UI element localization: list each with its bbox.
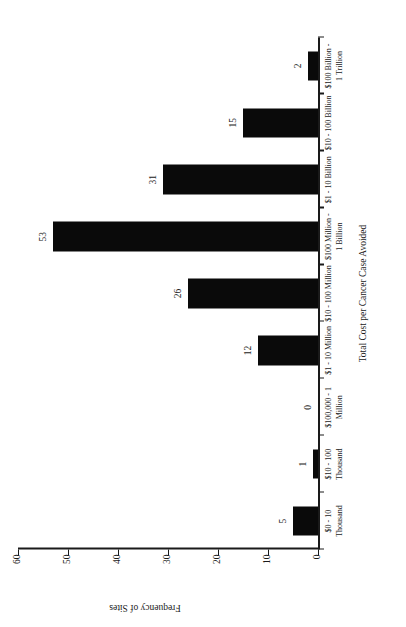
bar-value-label: 26 (173, 288, 184, 298)
bar-value-label: 1 (298, 461, 309, 466)
x-axis-category-label: $1 - 10 Billion (324, 151, 335, 208)
bar (308, 51, 318, 81)
bar-value-label: 2 (293, 63, 304, 68)
bar (53, 221, 318, 251)
x-axis-category-label: $10 - 100 Billion (324, 94, 335, 151)
chart-page: 51012265331152 0102030405060 $0 - 10 Tho… (0, 0, 406, 627)
x-axis-category-label: $100 Billion - 1 Trillion (324, 37, 345, 94)
y-axis-tick-label: 10 (261, 554, 274, 564)
bar (293, 506, 318, 536)
bar-value-label: 31 (148, 174, 159, 184)
bar-value-label: 0 (303, 404, 314, 409)
x-axis-category-label: $0 - 10 Thousand (324, 492, 345, 549)
x-axis-category-label: $1 - 10 Million (324, 321, 335, 378)
x-axis-title: Total Cost per Cancer Case Avoided (358, 37, 368, 549)
y-axis-tick-label: 40 (111, 554, 124, 564)
bar (313, 449, 318, 479)
y-axis-tick-label: 60 (11, 554, 24, 564)
bar (188, 278, 318, 308)
bar-value-label: 53 (38, 231, 49, 241)
histogram-figure: 51012265331152 0102030405060 $0 - 10 Tho… (0, 0, 406, 627)
x-axis-category-label: $100 Million - 1 Billion (324, 208, 345, 265)
bar-value-label: 5 (278, 518, 289, 523)
x-axis-category-label: $10 - 100 Thousand (324, 435, 345, 492)
y-axis-tick-label: 20 (211, 554, 224, 564)
bar (243, 108, 318, 138)
plot-area: 51012265331152 0102030405060 (18, 37, 318, 549)
y-axis-tick-label: 30 (161, 554, 174, 564)
x-axis-category-label: $100,000 - 1 Million (324, 378, 345, 435)
y-axis-tick-label: 0 (311, 554, 324, 559)
y-axis-title: Frequency of Sites (85, 602, 205, 612)
bar (258, 335, 318, 365)
x-axis-spine (318, 37, 320, 549)
bar-value-label: 12 (243, 345, 254, 355)
y-axis-tick-label: 50 (61, 554, 74, 564)
x-axis-category-label: $10 - 100 Million (324, 265, 335, 322)
bar-value-label: 15 (228, 118, 239, 128)
bar-series: 51012265331152 (18, 37, 318, 549)
bar (163, 164, 318, 194)
